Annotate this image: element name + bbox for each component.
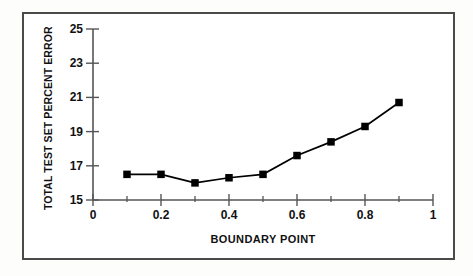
figure-root: 25 23 21 19 17 15 0 0.2 0.4 0.6 0.8 1 TO… [0, 0, 473, 276]
figure-border [22, 12, 455, 260]
